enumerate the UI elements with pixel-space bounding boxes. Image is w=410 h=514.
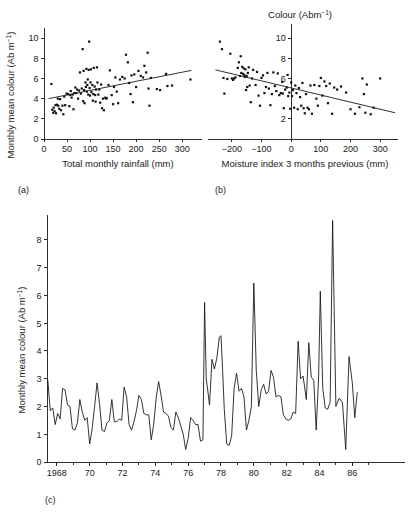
scatter-point — [50, 83, 52, 85]
scatter-point — [83, 89, 85, 91]
scatter-point — [55, 112, 57, 114]
scatter-point — [290, 81, 292, 83]
panel-c-xtick-9: 86 — [347, 468, 357, 478]
panel-a-ytick-3: 6 — [33, 74, 38, 84]
scatter-point — [124, 77, 126, 79]
scatter-point — [79, 71, 81, 73]
panel-c-xtick-8: 84 — [314, 468, 324, 478]
scatter-point — [125, 54, 127, 56]
scatter-point — [331, 113, 333, 115]
panel-b-title-tail: ) — [329, 9, 332, 20]
scatter-point — [127, 61, 129, 63]
scatter-point — [303, 107, 305, 109]
panel-c-xtick-6: 80 — [249, 468, 259, 478]
scatter-point — [117, 102, 119, 104]
scatter-point — [94, 85, 96, 87]
panel-b-x-axis-title: Moisture index 3 months previous (mm) — [222, 158, 389, 169]
scatter-point — [119, 78, 121, 80]
scatter-point — [379, 77, 381, 79]
scatter-point — [102, 98, 104, 100]
panel-a-xtick-5: 250 — [152, 144, 167, 154]
panel-a-xtick-2: 100 — [83, 144, 98, 154]
scatter-point — [137, 70, 139, 72]
scatter-point — [265, 86, 267, 88]
panel-a-ytick-4: 8 — [33, 54, 38, 64]
scatter-point — [304, 112, 306, 114]
panel-c-ytick-8: 8 — [36, 235, 41, 245]
scatter-point — [92, 100, 94, 102]
scatter-point — [249, 84, 251, 86]
scatter-point — [148, 105, 150, 107]
scatter-point — [256, 71, 258, 73]
scatter-point — [159, 89, 161, 91]
scatter-point — [135, 86, 137, 88]
panel-a-scatter-points — [50, 41, 191, 116]
scatter-point — [262, 74, 264, 76]
scatter-point — [129, 93, 131, 95]
scatter-point — [336, 88, 338, 90]
scatter-point — [147, 52, 149, 54]
panel-a-y-axis-title: Monthly mean colour (Ab m−1) — [5, 32, 16, 159]
scatter-point — [101, 107, 103, 109]
scatter-point — [245, 89, 247, 91]
scatter-point — [293, 107, 295, 109]
panel-a-xtick-3: 150 — [106, 144, 121, 154]
scatter-point — [288, 91, 290, 93]
scatter-point — [77, 98, 79, 100]
scatter-point — [91, 84, 93, 86]
panel-c-y-axis-title-tail: ) — [16, 287, 27, 290]
panel-a-ytick-1: 2 — [33, 114, 38, 124]
scatter-point — [132, 101, 134, 103]
panel-b-xtick-4: 200 — [343, 144, 358, 154]
scatter-point — [145, 71, 147, 73]
scatter-point — [70, 90, 72, 92]
panel-b-letter: (b) — [215, 185, 226, 195]
figure-svg: 0501001502002503000246810 Total monthly … — [0, 0, 410, 514]
panel-a-letter: (a) — [18, 185, 29, 195]
scatter-point — [72, 108, 74, 110]
panel-b-xtick-1: −100 — [251, 144, 271, 154]
scatter-point — [292, 89, 294, 91]
scatter-point — [358, 106, 360, 108]
scatter-point — [171, 84, 173, 86]
scatter-point — [96, 81, 98, 83]
scatter-point — [89, 87, 91, 89]
scatter-point — [247, 72, 249, 74]
scatter-point — [60, 109, 62, 111]
scatter-point — [294, 84, 296, 86]
scatter-point — [298, 87, 300, 89]
scatter-point — [366, 83, 368, 85]
panel-b-title-main: Colour (Abm — [268, 9, 321, 20]
panel-c-xtick-5: 78 — [216, 468, 226, 478]
panel-a-ytick-0: 0 — [33, 134, 38, 144]
panel-c-ytick-6: 6 — [36, 291, 41, 301]
scatter-point — [142, 76, 144, 78]
scatter-point — [281, 81, 283, 83]
panel-a-x-axis-title: Total monthly rainfall (mm) — [62, 158, 173, 169]
panel-a: 0501001502002503000246810 Total monthly … — [5, 28, 202, 195]
panel-b-xtick-2: 0 — [289, 144, 294, 154]
scatter-point — [315, 98, 317, 100]
scatter-point — [317, 105, 319, 107]
scatter-point — [89, 95, 91, 97]
scatter-point — [260, 77, 262, 79]
scatter-point — [354, 113, 356, 115]
panel-a-axes — [41, 28, 202, 142]
panel-c-letter: (c) — [45, 495, 56, 505]
scatter-point — [240, 55, 242, 57]
scatter-point — [94, 94, 96, 96]
panel-c-xtick-7: 82 — [282, 468, 292, 478]
scatter-point — [274, 85, 276, 87]
scatter-point — [222, 77, 224, 79]
scatter-point — [147, 87, 149, 89]
scatter-point — [53, 107, 55, 109]
scatter-point — [53, 110, 55, 112]
panel-b-xtick-5: 300 — [373, 144, 388, 154]
scatter-point — [284, 88, 286, 90]
scatter-point — [272, 71, 274, 73]
scatter-point — [121, 76, 123, 78]
panel-c-ytick-0: 0 — [36, 457, 41, 467]
scatter-point — [345, 91, 347, 93]
scatter-point — [287, 74, 289, 76]
panel-c-xtick-0: 1968 — [47, 468, 67, 478]
